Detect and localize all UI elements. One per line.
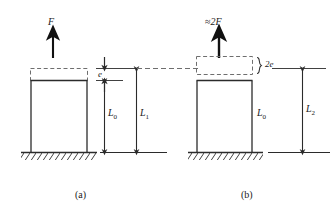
dashed-original-block-b — [197, 57, 253, 75]
caption-b: (b) — [241, 190, 253, 200]
solid-block-b — [197, 81, 253, 153]
extension-label-b: 2e — [265, 60, 274, 69]
extension-label-a: e — [98, 70, 102, 79]
length-L2-sub-b: 2 — [312, 109, 316, 117]
diagram-canvas — [0, 0, 334, 219]
force-label-a: F — [48, 17, 54, 27]
force-value-b: 2F — [211, 16, 222, 27]
length-L0-label-a: L0 — [108, 108, 117, 121]
caption-a: (a) — [75, 190, 86, 200]
spring-extension-diagram: F e L0 L1 (a) ≈2F 2e L0 L2 (b) — [0, 0, 334, 219]
extension-brace-b — [258, 58, 262, 74]
extension-dimension-a — [96, 57, 137, 92]
ground-support-a — [21, 153, 97, 161]
length-L1-sub-a: 1 — [146, 113, 150, 121]
force-label-b: ≈2F — [205, 17, 222, 27]
length-L2-dimension-b — [268, 69, 330, 153]
solid-block-a — [31, 81, 88, 153]
length-L0-sub-a: 0 — [114, 113, 118, 121]
length-L0-sub-b: 0 — [263, 113, 267, 121]
length-L1-label-a: L1 — [140, 108, 149, 121]
length-L0-label-b: L0 — [257, 108, 266, 121]
ground-support-b — [188, 153, 263, 161]
dashed-original-block-a — [31, 69, 88, 81]
length-L2-label-b: L2 — [306, 104, 315, 117]
